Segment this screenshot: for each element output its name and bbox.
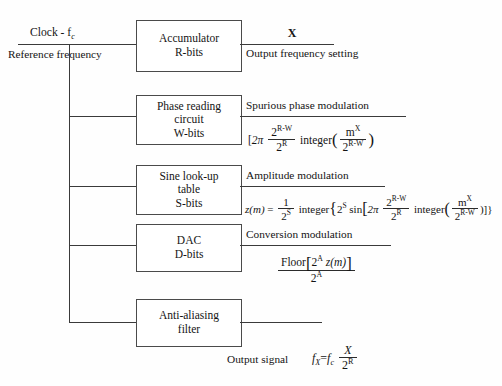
- accumulator-output-symbol: X: [272, 27, 312, 41]
- output-frequency-setting-line1: Output frequency: [246, 47, 325, 59]
- dac-formula-fraction: Floor[2A z(m)] 2A: [278, 256, 355, 285]
- dac-output-wire: [240, 245, 391, 246]
- output-frequency-setting-line2: setting: [328, 47, 358, 59]
- clock-input-wire: [18, 44, 136, 45]
- output-signal-caption-text: Output signal: [227, 353, 288, 365]
- reference-frequency-line1: Reference: [8, 48, 54, 60]
- sine-formula-fraction-1: 2R-W 2R: [383, 196, 409, 223]
- conversion-modulation-formula: Floor[2A z(m)] 2A: [276, 256, 357, 285]
- reference-frequency-line2: frequency: [57, 48, 102, 60]
- sine-formula-brace-open: {: [329, 203, 337, 216]
- amplitude-modulation-text: Amplitude modulation: [246, 169, 349, 181]
- clock-distribution-bus: [69, 44, 70, 322]
- sine-formula-lead-denominator: 2S: [278, 209, 294, 222]
- block-sine-lookup-table[interactable]: Sine look-up table S-bits: [136, 165, 242, 215]
- block-dac-line1: DAC: [177, 234, 201, 248]
- spurious-phase-modulation-caption: Spurious phase modulation: [246, 99, 369, 112]
- amplitude-modulation-caption: Amplitude modulation: [246, 169, 349, 182]
- accumulator-output-symbol-text: X: [288, 26, 297, 40]
- phase-formula-paren-open: (: [332, 133, 338, 146]
- sine-formula-closers: )]}: [480, 203, 493, 215]
- sine-formula-frac1-numerator: 2R-W: [383, 196, 409, 209]
- output-signal-fc: fc: [327, 351, 334, 366]
- wire-to-sine-block: [69, 186, 136, 187]
- sine-formula-twopi: 2π: [367, 203, 378, 215]
- conversion-modulation-caption: Conversion modulation: [246, 228, 352, 241]
- spurious-phase-modulation-formula: [2π 2R-W 2R integer( mX 2R-W ): [248, 126, 374, 154]
- sine-output-wire: [240, 186, 385, 187]
- block-dac-line2: D-bits: [175, 248, 204, 262]
- block-sine-line3: S-bits: [176, 197, 203, 211]
- output-signal-numerator: X: [339, 344, 356, 358]
- block-sine-line1: Sine look-up: [159, 170, 218, 184]
- wire-to-filter-block: [69, 322, 136, 323]
- amplitude-modulation-formula: z(m) = 1 2S integer{2S sin[2π 2R-W 2R in…: [245, 196, 493, 223]
- block-phase-line3: W-bits: [174, 127, 205, 141]
- phase-formula-frac1-numerator: 2R-W: [268, 126, 295, 140]
- output-signal-fx: fX: [312, 351, 320, 366]
- phase-formula-fraction-1: 2R-W 2R: [268, 126, 295, 154]
- sine-formula-paren-open: (: [445, 203, 450, 216]
- phase-formula-frac2-denominator: 2R-W: [340, 140, 367, 154]
- block-filter-line1: Anti-aliasing: [159, 309, 219, 323]
- phase-formula-paren-close: ): [368, 133, 374, 146]
- reference-frequency-label: Reference frequency: [8, 48, 102, 61]
- block-accumulator[interactable]: Accumulator R-bits: [136, 20, 242, 72]
- sine-formula-frac1-denominator: 2R: [383, 209, 409, 222]
- dac-formula-numerator: Floor[2A z(m)]: [278, 256, 355, 271]
- sine-formula-sin-word: sin: [349, 203, 362, 215]
- block-sine-line2: table: [178, 183, 200, 197]
- phase-formula-frac2-numerator: mX: [340, 126, 367, 140]
- sine-formula-integer-word: integer: [299, 203, 330, 215]
- dac-formula-denominator: 2A: [278, 271, 355, 285]
- block-filter-line2: filter: [178, 323, 200, 337]
- sine-formula-lead-numerator: 1: [278, 196, 294, 209]
- block-phase-line2: circuit: [174, 113, 203, 127]
- output-signal-caption: Output signal: [227, 353, 288, 366]
- wire-to-phase-block: [69, 116, 136, 117]
- sine-formula-fraction-2: mX 2R-W: [452, 196, 478, 223]
- conversion-modulation-text: Conversion modulation: [246, 228, 352, 240]
- sine-formula-frac2-numerator: mX: [452, 196, 478, 209]
- block-accumulator-line2: R-bits: [175, 46, 203, 60]
- sine-formula-two-pow-s: 2S: [337, 203, 347, 215]
- phase-formula-frac1-denominator: 2R: [268, 140, 295, 154]
- clock-label-subscript: c: [71, 32, 75, 41]
- phase-formula-integer-word: integer: [300, 134, 332, 146]
- output-signal-fraction: X 2R: [339, 344, 356, 373]
- dac-formula-bracket-close: ]: [346, 257, 352, 270]
- sine-formula-lhs: z(m): [245, 203, 265, 215]
- sine-formula-frac2-denominator: 2R-W: [452, 209, 478, 222]
- phase-formula-fraction-2: mX 2R-W: [340, 126, 367, 154]
- accumulator-output-wire: [240, 44, 334, 45]
- clock-label-text: Clock - f: [30, 26, 71, 39]
- block-phase-line1: Phase reading: [157, 100, 221, 114]
- output-signal-equals: =: [320, 351, 327, 366]
- output-frequency-setting-caption: Output frequency setting: [246, 47, 340, 60]
- phase-output-wire: [240, 116, 406, 117]
- dds-block-diagram: Clock - fc Reference frequency Accumulat…: [0, 0, 502, 386]
- block-anti-aliasing-filter[interactable]: Anti-aliasing filter: [136, 299, 242, 347]
- wire-to-dac-block: [69, 245, 136, 246]
- block-phase-reading-circuit[interactable]: Phase reading circuit W-bits: [136, 95, 242, 145]
- sine-formula-leading-fraction: 1 2S: [278, 196, 294, 223]
- output-signal-formula: fX=fc X 2R: [312, 344, 359, 373]
- block-dac[interactable]: DAC D-bits: [136, 224, 242, 272]
- filter-output-wire: [240, 322, 322, 323]
- sine-formula-integer-word-2: integer: [414, 203, 445, 215]
- output-signal-denominator: 2R: [339, 358, 356, 372]
- block-accumulator-line1: Accumulator: [159, 32, 219, 46]
- spurious-phase-modulation-text: Spurious phase modulation: [246, 99, 369, 111]
- clock-label: Clock - fc: [30, 26, 75, 39]
- phase-formula-twopi: 2π: [252, 134, 264, 146]
- sine-formula-equals: =: [267, 203, 273, 215]
